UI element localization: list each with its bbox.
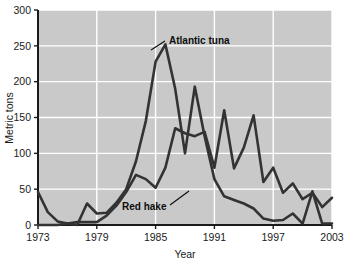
y-tick-label: 300 (13, 4, 31, 16)
x-tick-label: 2003 (320, 231, 344, 243)
chart-canvas: 050100150200250300 197319791985199119972… (0, 0, 345, 265)
y-tick-label: 250 (13, 40, 31, 52)
annotation-label-red-hake: Red hake (122, 201, 167, 212)
y-axis-title: Metric tons (3, 92, 15, 143)
y-tick-label: 50 (19, 183, 31, 195)
y-tick-label: 200 (13, 75, 31, 87)
annotation-label-atlantic-tuna: Atlantic tuna (169, 35, 230, 46)
x-tick-label: 1991 (203, 231, 227, 243)
x-tick-label: 1997 (262, 231, 286, 243)
x-tick-label: 1979 (85, 231, 109, 243)
x-tick-label: 1985 (144, 231, 168, 243)
line-chart: 050100150200250300 197319791985199119972… (0, 0, 345, 265)
x-axis-title: Year (174, 248, 196, 260)
y-tick-label: 0 (25, 219, 31, 231)
y-tick-label: 100 (13, 147, 31, 159)
x-tick-label: 1973 (26, 231, 50, 243)
y-tick-label: 150 (13, 111, 31, 123)
